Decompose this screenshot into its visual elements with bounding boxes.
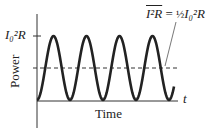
- y-axis-label: Power: [7, 55, 23, 88]
- t-axis-label: t: [183, 91, 187, 107]
- average-label: I²R = ½I₀²R: [146, 6, 205, 22]
- peak-label: I₀²R: [5, 27, 26, 43]
- leader-line: [165, 22, 176, 66]
- x-axis-label: Time: [95, 106, 122, 122]
